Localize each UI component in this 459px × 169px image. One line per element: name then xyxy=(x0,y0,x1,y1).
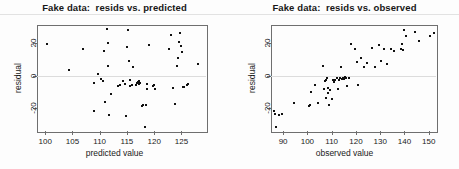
data-point xyxy=(274,113,276,115)
zero-reference-line xyxy=(37,76,206,77)
x-axis-tick-label: 110 xyxy=(93,137,106,146)
x-axis-tick-label: 105 xyxy=(66,137,79,146)
data-point xyxy=(433,32,435,34)
data-point xyxy=(371,47,373,49)
data-point xyxy=(183,86,185,88)
data-point xyxy=(93,110,95,112)
data-point xyxy=(174,103,176,105)
data-point xyxy=(357,84,359,86)
data-point xyxy=(46,43,48,45)
data-point xyxy=(309,104,311,106)
x-axis-tick-label: 90 xyxy=(279,137,288,146)
y-axis-tick-label: 0 xyxy=(263,73,272,77)
data-point xyxy=(107,42,109,44)
x-axis-tick-label: 130 xyxy=(374,137,387,146)
data-point xyxy=(333,81,335,83)
data-point xyxy=(386,63,388,65)
data-point xyxy=(145,104,147,106)
data-point xyxy=(323,88,325,90)
x-axis-tick xyxy=(127,131,128,135)
data-point xyxy=(366,62,368,64)
x-axis-tick xyxy=(154,131,155,135)
data-point xyxy=(68,69,70,71)
data-point xyxy=(405,35,407,37)
data-point xyxy=(356,61,358,63)
x-axis-title-right: observed value xyxy=(230,148,459,158)
data-point xyxy=(146,88,148,90)
x-axis-tick-label: 100 xyxy=(38,137,51,146)
data-point xyxy=(119,84,121,86)
data-point xyxy=(139,82,141,84)
data-point xyxy=(326,77,328,79)
y-axis-title-right: residual xyxy=(247,63,257,93)
data-point xyxy=(393,50,395,52)
data-point xyxy=(197,63,199,65)
data-point xyxy=(275,126,277,128)
data-point xyxy=(93,82,95,84)
data-point xyxy=(129,85,131,87)
data-point xyxy=(129,79,131,81)
data-point xyxy=(360,57,362,59)
data-point xyxy=(146,83,148,85)
data-point xyxy=(350,43,352,45)
data-point xyxy=(314,84,316,86)
data-point xyxy=(178,41,180,43)
data-point xyxy=(337,88,339,90)
data-point xyxy=(104,101,106,103)
panel-title-left: Fake data: resids vs. predicted xyxy=(0,2,229,13)
data-point xyxy=(176,65,178,67)
data-point xyxy=(325,97,327,99)
data-point xyxy=(374,66,376,68)
data-point xyxy=(180,45,182,47)
data-point xyxy=(327,92,329,94)
plot-frame-right xyxy=(271,25,438,133)
y-axis-tick-label: 0 xyxy=(29,73,38,77)
data-point xyxy=(340,66,342,68)
data-point xyxy=(331,98,333,100)
data-point xyxy=(103,50,105,52)
data-point xyxy=(107,65,109,67)
data-point xyxy=(124,83,126,85)
data-point xyxy=(170,34,172,36)
data-point xyxy=(328,104,330,106)
data-point xyxy=(102,80,104,82)
data-point xyxy=(144,126,146,128)
data-point xyxy=(97,73,99,75)
data-point xyxy=(106,28,108,30)
data-point xyxy=(403,29,405,31)
data-point xyxy=(172,87,174,89)
data-point xyxy=(125,115,127,117)
x-axis-tick-label: 120 xyxy=(349,137,362,146)
x-axis-tick xyxy=(356,131,357,135)
data-point xyxy=(148,44,150,46)
x-axis-tick xyxy=(45,131,46,135)
data-point xyxy=(281,113,283,115)
data-point xyxy=(179,32,181,34)
data-point xyxy=(126,46,128,48)
x-axis-tick xyxy=(72,131,73,135)
x-axis-title-left: predicted value xyxy=(0,148,229,158)
data-point xyxy=(132,66,134,68)
x-axis-tick xyxy=(429,131,430,135)
x-axis-tick-label: 125 xyxy=(175,137,188,146)
data-point xyxy=(82,48,84,50)
x-axis-tick xyxy=(283,131,284,135)
data-point xyxy=(310,91,312,93)
data-point xyxy=(153,84,155,86)
zero-reference-line xyxy=(271,76,436,77)
data-point xyxy=(378,44,380,46)
panel-resids-vs-observed: Fake data: resids vs. observed 901001101… xyxy=(230,0,459,169)
data-point xyxy=(363,66,365,68)
panel-title-right: Fake data: resids vs. observed xyxy=(230,2,459,13)
x-axis-tick xyxy=(380,131,381,135)
x-axis-tick-label: 110 xyxy=(325,137,338,146)
y-axis-tick-label: 20 xyxy=(263,38,272,47)
data-point xyxy=(322,65,324,67)
data-point xyxy=(293,102,295,104)
panel-resids-vs-predicted: Fake data: resids vs. predicted 10010511… xyxy=(0,0,229,169)
figure-canvas: Fake data: resids vs. predicted 10010511… xyxy=(0,0,459,169)
data-point xyxy=(154,88,156,90)
data-point xyxy=(128,60,130,62)
x-axis-tick-label: 120 xyxy=(148,137,161,146)
data-point xyxy=(117,85,119,87)
